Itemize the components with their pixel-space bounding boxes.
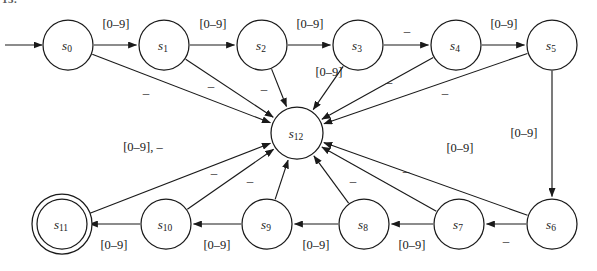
transition-edge-s2-to-s12 <box>272 69 287 106</box>
state-node-s1[interactable]: s1 <box>139 20 189 70</box>
nodes-layer: s0s1s2s3s4s5s6s7s8s9s10s11s12 <box>32 20 577 254</box>
transition-label-s4-to-s12: – <box>385 74 393 89</box>
state-node-s0[interactable]: s0 <box>43 20 93 70</box>
transition-label-s0-to-s12: – <box>142 85 150 100</box>
transition-label-s9-to-s12: – <box>246 173 254 188</box>
transition-label-s8-to-s12: – <box>349 173 357 188</box>
transition-label-s7-to-s8: [0–9] <box>398 238 425 252</box>
transition-label-s5-to-s6: [0–9] <box>510 126 537 140</box>
transition-label-s1-to-s12: – <box>207 78 215 93</box>
state-node-s12[interactable]: s12 <box>271 107 323 159</box>
state-node-s10[interactable]: s10 <box>141 199 191 249</box>
fsm-canvas: s0s1s2s3s4s5s6s7s8s9s10s11s12 [0–9][0–9]… <box>0 0 597 271</box>
state-machine-diagram: 13. s0s1s2s3s4s5s6s7s8s9s10s11s12 [0–9][… <box>0 0 597 271</box>
transition-label-s7-to-s12: – <box>402 163 410 178</box>
transition-edge-s7-to-s12 <box>322 147 436 211</box>
transition-label-s9-to-s10: [0–9] <box>203 238 230 252</box>
transition-label-s3-to-s12: [0–9] <box>315 65 342 79</box>
transition-label-s4-to-s5: [0–9] <box>490 17 517 31</box>
state-node-s9[interactable]: s9 <box>242 199 292 249</box>
transition-label-s6-to-s7: – <box>502 233 510 248</box>
state-node-s5[interactable]: s5 <box>527 20 577 70</box>
transition-label-s2-to-s3: [0–9] <box>296 17 323 31</box>
state-node-s7[interactable]: s7 <box>434 199 484 249</box>
transition-edge-s8-to-s12 <box>314 156 349 203</box>
transition-label-s8-to-s9: [0–9] <box>302 238 329 252</box>
transition-edge-s9-to-s12 <box>275 160 288 199</box>
transition-label-s10-to-s11: [0–9] <box>100 238 127 252</box>
transition-edge-s0-to-s12 <box>92 54 270 122</box>
transition-label-s1-to-s2: [0–9] <box>199 17 226 31</box>
state-node-s6[interactable]: s6 <box>527 199 577 249</box>
state-node-s11[interactable]: s11 <box>32 194 92 254</box>
state-node-s2[interactable]: s2 <box>237 20 287 70</box>
state-node-s8[interactable]: s8 <box>339 199 389 249</box>
transition-label-s0-to-s1: [0–9] <box>102 17 129 31</box>
state-node-s4[interactable]: s4 <box>431 20 481 70</box>
transition-label-s11-to-s12: [0–9], – <box>123 140 163 154</box>
transition-label-s2-to-s12: – <box>260 81 268 96</box>
transition-label-s10-to-s12: – <box>210 165 218 180</box>
transition-label-s6-to-s12: [0–9] <box>446 141 473 155</box>
transition-label-s3-to-s4: – <box>403 23 411 38</box>
state-node-s3[interactable]: s3 <box>333 20 383 70</box>
transition-label-s5-to-s12: – <box>441 85 449 100</box>
